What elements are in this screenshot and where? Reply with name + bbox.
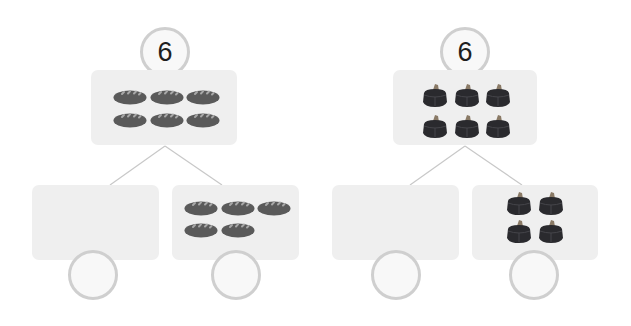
bread-icon [150,112,184,128]
cake-icon [505,218,533,244]
right-part-answer-circle[interactable] [509,250,559,300]
left-part-answer-circle[interactable] [68,250,118,300]
bread-icon [221,200,255,216]
bread-icon [113,89,147,105]
right-part-box[interactable] [472,185,598,260]
whole-box [91,70,237,145]
bread-icon [184,200,218,216]
left-part-box[interactable] [32,185,159,260]
cake-icon [453,82,481,108]
left-part-answer-circle[interactable] [371,250,421,300]
bread-icon [186,112,220,128]
cake-icon [537,218,565,244]
cake-icon [484,113,512,139]
left-part-box[interactable] [332,185,459,260]
cake-icon [537,190,565,216]
whole-number: 6 [157,37,172,68]
bread-icon [221,222,255,238]
bread-icon [113,112,147,128]
cake-icon [421,82,449,108]
bread-icon [257,200,291,216]
cake-icon [453,113,481,139]
right-part-answer-circle[interactable] [211,250,261,300]
whole-number: 6 [457,37,472,68]
bread-icon [184,222,218,238]
cake-icon [505,190,533,216]
cake-icon [484,82,512,108]
cake-icon [421,113,449,139]
bread-icon [186,89,220,105]
bread-icon [150,89,184,105]
